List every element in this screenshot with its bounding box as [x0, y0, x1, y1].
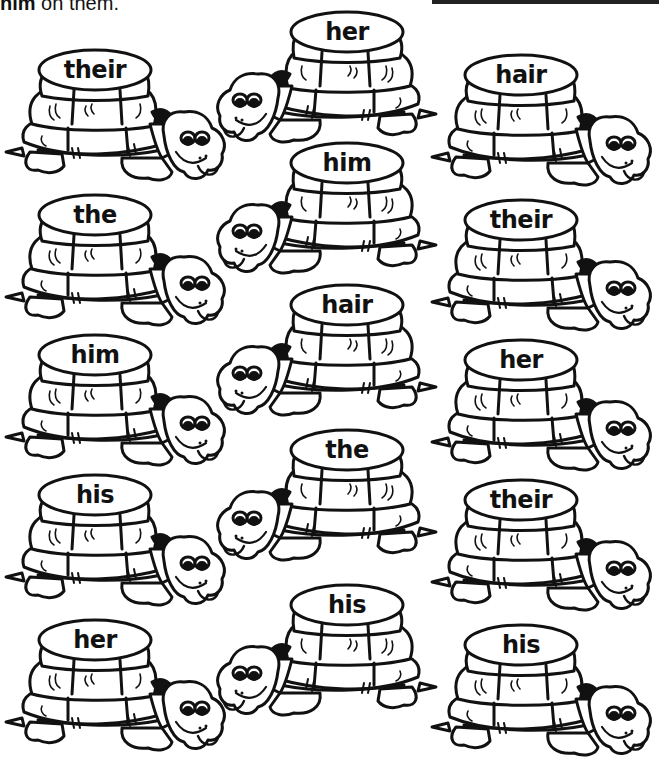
turtle-left-1: their	[2, 40, 232, 190]
turtle-left-5: her	[2, 610, 232, 757]
turtle-right-3: her	[428, 330, 658, 480]
turtle-word: him	[40, 337, 150, 373]
turtle-left-4: his	[2, 465, 232, 615]
turtle-middle-1: her	[210, 2, 440, 152]
instructions-bold-word: him	[0, 0, 36, 14]
turtle-word: their	[466, 202, 576, 238]
turtle-left-2: the	[2, 185, 232, 335]
turtle-word: the	[40, 197, 150, 233]
turtle-middle-5: his	[210, 575, 440, 725]
turtle-middle-3: hair	[210, 275, 440, 425]
turtle-word: hair	[292, 287, 402, 323]
turtle-word: hair	[466, 57, 576, 93]
turtle-word: him	[292, 145, 402, 181]
turtle-right-4: their	[428, 470, 658, 620]
turtle-word: the	[292, 432, 402, 468]
turtle-word: his	[466, 627, 576, 663]
instructions-rest: on them.	[36, 0, 119, 14]
turtle-right-2: their	[428, 190, 658, 340]
turtle-word: his	[292, 587, 402, 623]
turtle-left-3: him	[2, 325, 232, 475]
turtle-middle-2: him	[210, 133, 440, 283]
header-rule	[432, 0, 659, 4]
turtle-word: her	[292, 14, 402, 50]
turtle-word: their	[466, 482, 576, 518]
instructions-text: him on them.	[0, 0, 119, 15]
turtle-word: his	[40, 477, 150, 513]
turtle-word: their	[40, 52, 150, 88]
turtle-word: her	[40, 622, 150, 658]
turtle-right-5: his	[428, 615, 658, 757]
turtle-word: her	[466, 342, 576, 378]
turtle-middle-4: the	[210, 420, 440, 570]
turtle-right-1: hair	[428, 45, 658, 195]
